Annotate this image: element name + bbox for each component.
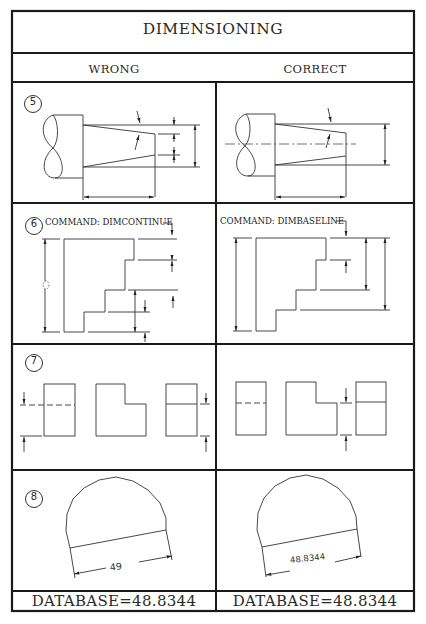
row6-wrong-dim-placeholder: [43, 281, 49, 289]
row6-correct-command: COMMAND: DIMBASELINE: [220, 216, 344, 226]
row7-correct-drawing: [236, 382, 386, 451]
footer-correct-database: DATABASE=48.8344: [216, 592, 414, 610]
row6-wrong-drawing: [42, 223, 178, 342]
row-number-6: 6: [27, 218, 41, 229]
row8-wrong-dim-text: 49: [109, 560, 122, 572]
row7-wrong-drawing: [20, 384, 210, 452]
column-header-correct: CORRECT: [216, 62, 414, 76]
dimensioning-chart: 49 DIMENSIONING WRONG CORRECT 5 6 7 8 CO…: [0, 0, 426, 624]
row-number-7: 7: [27, 355, 41, 366]
table-frame: [12, 11, 414, 611]
footer-wrong-database: DATABASE=48.8344: [12, 592, 216, 610]
row5-wrong-drawing: [43, 111, 200, 200]
row-number-8: 8: [27, 491, 41, 502]
row6-wrong-command: COMMAND: DIMCONTINUE: [45, 217, 173, 227]
row5-correct-drawing: [225, 108, 390, 200]
row-number-badges: [25, 96, 43, 508]
row6-correct-drawing: [233, 221, 390, 331]
page-title: DIMENSIONING: [12, 20, 414, 38]
column-header-wrong: WRONG: [12, 62, 216, 76]
row-number-5: 5: [26, 96, 40, 107]
